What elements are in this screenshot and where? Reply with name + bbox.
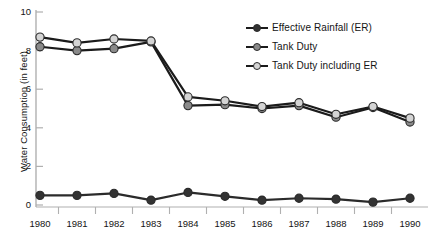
legend-marker-icon-0	[246, 22, 268, 34]
data-point	[73, 47, 81, 55]
legend-marker-icon-2	[246, 60, 268, 72]
legend-label-2: Tank Duty including ER	[272, 60, 378, 71]
legend-label-1: Tank Duty	[272, 41, 317, 52]
chart-legend: Effective Rainfall (ER) Tank Duty Tank D…	[246, 18, 428, 75]
data-point	[295, 194, 303, 202]
data-point	[332, 110, 340, 118]
data-point	[73, 39, 81, 47]
data-point	[36, 191, 44, 199]
legend-item-tank-duty: Tank Duty	[246, 37, 428, 56]
data-point	[110, 189, 118, 197]
data-point	[184, 93, 192, 101]
data-point	[184, 102, 192, 110]
data-point	[406, 114, 414, 122]
data-point	[295, 99, 303, 107]
data-point	[110, 45, 118, 53]
data-point	[147, 196, 155, 204]
data-point	[369, 102, 377, 110]
legend-marker-icon-1	[246, 41, 268, 53]
data-point	[332, 195, 340, 203]
data-point	[184, 188, 192, 196]
data-point	[110, 35, 118, 43]
legend-label-0: Effective Rainfall (ER)	[272, 22, 372, 33]
data-point	[258, 102, 266, 110]
legend-item-tank-duty-including-er: Tank Duty including ER	[246, 56, 428, 75]
data-point	[406, 194, 414, 202]
line-chart: Water Consumption (in feet) 0246810 1980…	[0, 0, 428, 246]
legend-item-effective-rainfall: Effective Rainfall (ER)	[246, 18, 428, 37]
data-point	[258, 196, 266, 204]
data-point	[36, 43, 44, 51]
data-point	[147, 37, 155, 45]
data-point	[36, 33, 44, 41]
data-point	[221, 97, 229, 105]
data-point	[221, 192, 229, 200]
data-point	[73, 191, 81, 199]
data-point	[369, 198, 377, 206]
